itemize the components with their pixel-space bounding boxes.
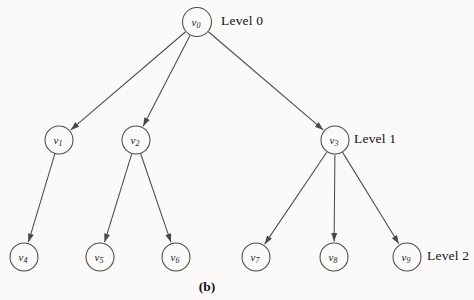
node-v8[interactable]: v8 [320,243,348,271]
edge-v0-v2 [143,35,190,126]
edge-line [141,154,171,243]
node-v6[interactable]: v6 [162,243,190,271]
arrowhead-icon [392,235,399,244]
arrowhead-icon [143,117,150,126]
node-label-subscript: 8 [333,256,337,265]
arrowhead-icon [331,233,337,242]
arrowhead-icon [104,233,110,242]
node-label-subscript: 2 [135,139,139,148]
edge-v2-v5 [104,154,132,242]
arrowhead-icon [265,235,272,244]
edge-line [334,155,335,242]
edge-line [28,154,54,242]
arrowhead-icon [28,233,34,242]
level-1-label: Level 1 [354,131,396,147]
figure-caption: (b) [0,279,414,295]
node-label-subscript: 0 [196,21,200,30]
node-v2[interactable]: v2 [122,126,150,154]
level-2-label: Level 2 [427,248,469,264]
node-label-subscript: 4 [23,256,27,265]
edge-line [208,32,323,130]
node-v0[interactable]: v0 [183,8,212,37]
node-label-subscript: 3 [333,139,338,148]
edge-line [265,152,327,244]
node-v4[interactable]: v4 [10,243,38,271]
node-v5[interactable]: v5 [86,243,114,271]
node-label-subscript: 6 [175,256,179,265]
edge-v3-v8 [331,155,337,242]
edge-line [71,32,186,130]
node-v3[interactable]: v3 [321,126,349,154]
node-label-subscript: 1 [58,139,62,148]
edge-line [343,152,399,243]
arrowhead-icon [165,233,171,242]
edge-v3-v7 [265,152,327,244]
edge-v0-v3 [208,32,323,130]
node-label-subscript: 5 [99,256,103,265]
edge-v3-v9 [343,152,399,243]
edge-line [143,35,190,126]
node-v9[interactable]: v9 [393,243,421,271]
tree-graph: v0v1v2v3v4v5v6v7v8v9 [0,0,474,300]
edge-v0-v1 [71,32,186,130]
edge-v2-v6 [141,154,171,243]
node-v1[interactable]: v1 [45,126,73,154]
tree-diagram-figure: v0v1v2v3v4v5v6v7v8v9 Level 0 Level 1 Lev… [0,0,474,300]
node-label-subscript: 9 [406,256,410,265]
level-0-label: Level 0 [221,13,263,29]
node-v7[interactable]: v7 [242,243,270,271]
edge-v1-v4 [28,154,55,242]
edge-line [105,154,132,242]
